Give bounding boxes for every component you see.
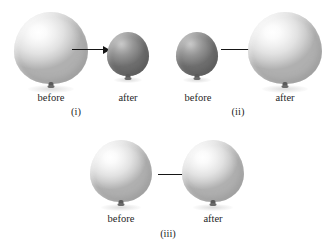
balloon-body [176,32,218,76]
balloon-body [107,32,149,76]
panel-ii-after-label: after [262,92,308,104]
balloon-knot-icon [210,200,217,207]
panel-ii: before after (ii) [163,0,325,123]
panel-i-after-label: after [105,92,151,104]
panel-ii-before-label: before [161,92,235,104]
balloon-knot-icon [282,82,289,89]
panel-iii-caption: (iii) [148,228,188,240]
balloon-body [182,140,244,202]
balloon-body [90,140,152,202]
panel-i-before-label: before [14,92,88,104]
panel-ii-after-balloon [248,12,322,92]
balloon-knot-icon [48,82,55,89]
panel-iii: before after (iii) [78,125,258,245]
panel-i-after-balloon [107,32,149,82]
panel-iii-after-label: after [190,213,236,225]
panel-ii-before-balloon [176,32,218,82]
panel-iii-before-balloon [90,140,152,210]
balloon-knot-icon [125,74,132,81]
balloon-knot-icon [118,200,125,207]
balloon-knot-icon [194,74,201,81]
panel-iii-after-balloon [182,140,244,210]
panel-iii-before-label: before [84,213,158,225]
panel-i: before after (i) [0,0,163,123]
balloon-before-after-figure: before after (i) before [0,0,325,245]
panel-i-caption: (i) [56,106,96,118]
panel-ii-caption: (ii) [218,106,258,118]
panel-i-arrow-icon [72,45,110,54]
balloon-body [248,12,322,84]
